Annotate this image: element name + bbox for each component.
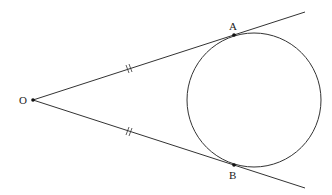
label-a: A bbox=[229, 21, 237, 32]
label-o: O bbox=[19, 95, 27, 106]
point-a bbox=[232, 33, 236, 37]
circle bbox=[187, 33, 321, 167]
point-o bbox=[31, 98, 35, 102]
point-b bbox=[232, 163, 236, 167]
label-b: B bbox=[229, 170, 236, 181]
tangent-line-oa bbox=[33, 12, 305, 100]
diagram-canvas bbox=[0, 0, 332, 195]
tangent-line-ob bbox=[33, 100, 305, 188]
